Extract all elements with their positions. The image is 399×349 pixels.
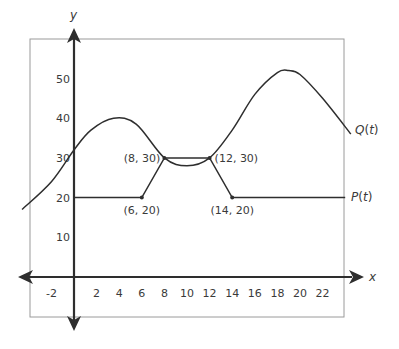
frame-border bbox=[30, 39, 344, 317]
p-of-t-line bbox=[74, 158, 345, 198]
point-marker bbox=[230, 196, 234, 200]
x-tick-label: -2 bbox=[46, 287, 57, 300]
point-annotation-label: (12, 30) bbox=[215, 152, 259, 165]
p-of-t-label: P(t) bbox=[351, 190, 372, 204]
point-annotation-label: (6, 20) bbox=[124, 204, 161, 217]
point-marker bbox=[208, 156, 212, 160]
y-tick-label: 40 bbox=[56, 112, 70, 125]
y-tick-label: 10 bbox=[56, 231, 70, 244]
point-annotations: (6, 20)(8, 30)(12, 30)(14, 20) bbox=[124, 152, 259, 217]
x-tick-label: 6 bbox=[138, 287, 145, 300]
x-tick-label: 12 bbox=[203, 287, 217, 300]
tick-labels: -22468101214161820221020304050 bbox=[46, 73, 330, 301]
y-tick-label: 50 bbox=[56, 73, 70, 86]
point-marker bbox=[162, 156, 166, 160]
y-axis-label: y bbox=[69, 8, 78, 22]
series-labels: P(t)Q(t) bbox=[351, 123, 379, 204]
x-tick-label: 22 bbox=[316, 287, 330, 300]
x-tick-label: 16 bbox=[248, 287, 262, 300]
axes: xy bbox=[18, 8, 377, 331]
x-axis-label: x bbox=[368, 270, 377, 284]
point-annotation-label: (14, 20) bbox=[210, 204, 254, 217]
y-tick-label: 20 bbox=[56, 192, 70, 205]
series-lines bbox=[22, 70, 351, 210]
x-tick-label: 14 bbox=[225, 287, 239, 300]
x-tick-label: 8 bbox=[161, 287, 168, 300]
x-tick-label: 20 bbox=[293, 287, 307, 300]
point-annotation-label: (8, 30) bbox=[124, 152, 161, 165]
point-marker bbox=[140, 196, 144, 200]
q-of-t-label: Q(t) bbox=[355, 123, 379, 137]
x-tick-label: 4 bbox=[116, 287, 123, 300]
x-tick-label: 18 bbox=[270, 287, 284, 300]
q-of-t-curve bbox=[22, 70, 351, 210]
chart: xy -22468101214161820221020304050 (6, 20… bbox=[0, 0, 399, 349]
x-tick-label: 2 bbox=[93, 287, 100, 300]
x-tick-label: 10 bbox=[180, 287, 194, 300]
